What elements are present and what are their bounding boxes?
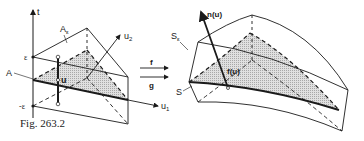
neg-eps-label: -ε [19, 102, 26, 111]
u2-axis-label: u2 [124, 31, 133, 42]
f-u-point [227, 87, 230, 90]
right-curved-prism [189, 15, 348, 131]
f-map-label: f [150, 58, 153, 67]
u-label: u [61, 75, 67, 85]
u-top-point [56, 55, 60, 59]
A-eps-label: Aε [60, 24, 69, 35]
u-bottom-point [56, 102, 60, 106]
A-pointer [14, 73, 33, 79]
S-label: S [176, 87, 182, 97]
S-eps-label: Sε [171, 31, 180, 42]
f-u-label: f(u) [227, 67, 240, 76]
figure-caption: Fig. 263.2 [20, 117, 65, 129]
eps-point [31, 55, 34, 58]
region-A [33, 50, 128, 100]
left-prism [33, 28, 128, 124]
neg-eps-point [31, 104, 34, 107]
t-axis-label: t [37, 7, 40, 17]
u-mid-point [56, 78, 59, 81]
S-eps-pointer [180, 42, 188, 50]
u1-axis [128, 100, 158, 106]
u1-axis-label: u1 [161, 101, 170, 112]
S-pointer [183, 86, 192, 91]
eps-label: ε [24, 53, 28, 62]
g-map-label: g [149, 81, 154, 90]
A-label: A [6, 68, 12, 78]
n-label: n(u) [207, 10, 222, 19]
